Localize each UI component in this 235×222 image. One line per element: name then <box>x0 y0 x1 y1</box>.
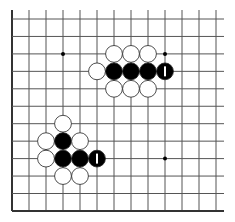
white-stone-icon <box>106 80 123 97</box>
white-stone-icon <box>140 46 157 63</box>
star-point-icon <box>163 52 167 56</box>
move-marker-icon <box>96 154 98 164</box>
black-stone-icon <box>123 63 140 80</box>
star-point-icon <box>163 157 167 161</box>
black-stone-icon <box>140 63 157 80</box>
white-stone <box>38 150 55 167</box>
black-stone <box>140 63 157 80</box>
white-stone <box>140 46 157 63</box>
white-stone <box>89 63 106 80</box>
white-stone-icon <box>123 46 140 63</box>
white-stone-icon <box>72 168 89 185</box>
white-stone <box>123 46 140 63</box>
black-stone <box>123 63 140 80</box>
white-stone <box>55 115 72 132</box>
black-stone-icon <box>106 63 123 80</box>
white-stone <box>72 168 89 185</box>
white-stone-icon <box>89 63 106 80</box>
black-stone-icon <box>72 150 89 167</box>
white-stone <box>38 133 55 150</box>
white-stone <box>106 80 123 97</box>
white-stone-icon <box>38 133 55 150</box>
white-stone <box>106 46 123 63</box>
black-stone <box>106 63 123 80</box>
black-stone <box>55 133 72 150</box>
white-stone <box>55 168 72 185</box>
white-stone-icon <box>106 46 123 63</box>
white-stone-icon <box>72 133 89 150</box>
white-stone <box>140 80 157 97</box>
stones-layer <box>38 46 174 185</box>
white-stone-icon <box>38 150 55 167</box>
black-stone <box>157 63 174 80</box>
move-marker-icon <box>164 66 166 76</box>
white-stone <box>123 80 140 97</box>
white-stone-icon <box>123 80 140 97</box>
black-stone <box>89 150 106 167</box>
white-stone-icon <box>55 168 72 185</box>
black-stone <box>55 150 72 167</box>
white-stone <box>72 133 89 150</box>
star-point-icon <box>61 52 65 56</box>
black-stone-icon <box>55 150 72 167</box>
go-board <box>0 0 235 222</box>
black-stone <box>72 150 89 167</box>
white-stone-icon <box>55 115 72 132</box>
white-stone-icon <box>140 80 157 97</box>
board-grid <box>12 10 224 211</box>
black-stone-icon <box>55 133 72 150</box>
